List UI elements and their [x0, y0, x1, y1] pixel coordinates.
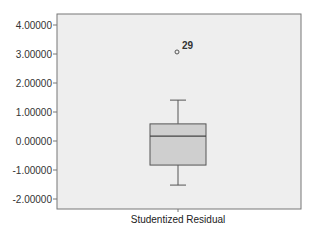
box-plot-chart: 4.000003.000002.000001.000000.00000-1.00… [0, 0, 315, 237]
y-tick-label: 2.00000 [16, 78, 53, 89]
outlier-label: 29 [182, 40, 194, 51]
y-tick-label: -2.00000 [13, 194, 53, 205]
y-tick-label: 4.00000 [16, 20, 53, 31]
iqr-box [150, 124, 206, 165]
y-tick-label: 3.00000 [16, 49, 53, 60]
y-axis: 4.000003.000002.000001.000000.00000-1.00… [13, 20, 57, 205]
y-tick-label: -1.00000 [13, 165, 53, 176]
plot-area [57, 14, 301, 209]
x-axis-title: Studentized Residual [131, 214, 226, 225]
y-tick-label: 0.00000 [16, 136, 53, 147]
y-tick-label: 1.00000 [16, 107, 53, 118]
